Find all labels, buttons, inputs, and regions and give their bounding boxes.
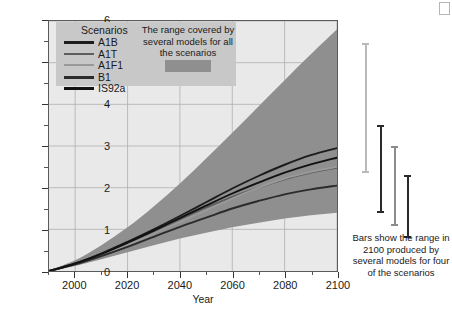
error-bar-cap-top (362, 43, 369, 45)
error-bar-4 (404, 175, 411, 238)
x-tick-mark (285, 272, 286, 278)
x-tick-minor (153, 272, 154, 275)
error-bar-stem (394, 146, 396, 226)
error-bar-cap-top (391, 146, 398, 148)
error-bar-cap-top (404, 175, 411, 177)
x-tick-minor (48, 272, 49, 275)
range-band-swatch (165, 60, 211, 72)
range-annotation-text: The range covered by several models for … (140, 24, 236, 59)
x-axis-title: Year (173, 293, 233, 305)
y-tick-mark (42, 104, 48, 105)
error-bar-1 (362, 43, 369, 173)
x-tick-minor (259, 272, 260, 275)
legend-label-b1: B1 (98, 71, 111, 83)
error-bar-3 (391, 146, 398, 226)
legend-label-a1t: A1T (98, 48, 117, 60)
y-tick-mark (42, 20, 48, 21)
x-tick-label-2020: 2020 (107, 280, 147, 291)
y-tick-minor (44, 125, 48, 126)
y-tick-mark (42, 62, 48, 63)
error-bar-cap-bottom (391, 224, 398, 226)
x-tick-label-2100: 2100 (318, 280, 358, 291)
x-tick-mark (74, 272, 75, 278)
error-bar-cap-bottom (362, 171, 369, 173)
error-bar-stem (365, 43, 367, 173)
x-tick-label-2040: 2040 (160, 280, 200, 291)
legend-title: Scenarios (81, 24, 128, 36)
climate-projection-figure: Temperature change (°C) 0123456 20002020… (0, 0, 452, 313)
error-bar-2 (377, 125, 384, 213)
x-tick-mark (233, 272, 234, 278)
x-tick-label-2080: 2080 (265, 280, 305, 291)
y-tick-mark (42, 230, 48, 231)
y-tick-mark (42, 188, 48, 189)
legend-swatch-a1t (64, 53, 94, 55)
error-bar-stem (407, 175, 409, 238)
y-tick-label-4: 4 (90, 99, 110, 109)
bars-annotation-text: Bars show the range in 2100 produced by … (352, 232, 450, 278)
legend-label-is92a: IS92a (98, 82, 125, 94)
corner-marker (439, 2, 450, 15)
x-tick-mark (338, 272, 339, 278)
y-tick-minor (44, 167, 48, 168)
x-tick-minor (206, 272, 207, 275)
legend-swatch-a1b (64, 41, 94, 44)
y-tick-label-1: 1 (90, 225, 110, 235)
x-tick-mark (180, 272, 181, 278)
x-tick-mark (127, 272, 128, 278)
x-tick-minor (312, 272, 313, 275)
legend-swatch-is92a (64, 87, 94, 90)
error-bar-stem (380, 125, 382, 213)
legend-label-a1b: A1B (98, 36, 118, 48)
error-bar-cap-top (377, 125, 384, 127)
error-bar-cap-bottom (377, 211, 384, 213)
x-tick-label-2000: 2000 (54, 280, 94, 291)
y-tick-label-3: 3 (90, 141, 110, 151)
y-tick-minor (44, 83, 48, 84)
x-tick-label-2060: 2060 (213, 280, 253, 291)
legend-label-a1f1: A1F1 (98, 59, 123, 71)
y-tick-minor (44, 251, 48, 252)
legend-swatch-b1 (64, 76, 94, 79)
y-tick-minor (44, 41, 48, 42)
y-tick-mark (42, 146, 48, 147)
y-tick-label-2: 2 (90, 183, 110, 193)
legend-swatch-a1f1 (64, 64, 94, 66)
y-tick-minor (44, 209, 48, 210)
x-tick-minor (101, 272, 102, 275)
